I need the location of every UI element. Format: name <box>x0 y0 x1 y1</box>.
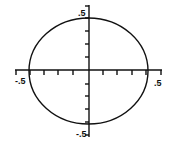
ellipse-plot: .5 -.5 -.5 .5 <box>0 0 173 146</box>
x-max-label: .5 <box>154 78 162 88</box>
y-min-label: -.5 <box>76 129 87 139</box>
y-max-label: .5 <box>78 8 86 18</box>
y-axis <box>85 5 89 137</box>
x-min-label: -.5 <box>15 76 26 86</box>
